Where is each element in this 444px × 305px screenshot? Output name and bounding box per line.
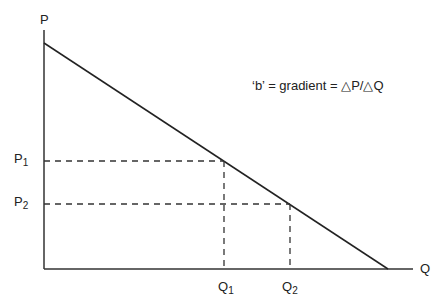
q2-sub: 2 — [292, 285, 298, 296]
q1-sub: 1 — [228, 285, 234, 296]
q1-base: Q — [218, 279, 228, 294]
p2-label: P2 — [14, 194, 28, 209]
x-axis-label: Q — [420, 261, 430, 276]
q2-label: Q2 — [282, 279, 298, 294]
q2-base: Q — [282, 279, 292, 294]
p2-sub: 2 — [23, 200, 29, 211]
p1-base: P — [14, 151, 23, 166]
p1-sub: 1 — [23, 157, 29, 168]
p1-label: P1 — [14, 151, 28, 166]
gradient-annotation: ‘b’ = gradient = △P/△Q — [252, 78, 384, 93]
q1-label: Q1 — [218, 279, 234, 294]
y-axis-label: P — [40, 12, 49, 27]
demand-line — [44, 43, 388, 269]
p2-base: P — [14, 194, 23, 209]
demand-diagram — [0, 0, 444, 305]
